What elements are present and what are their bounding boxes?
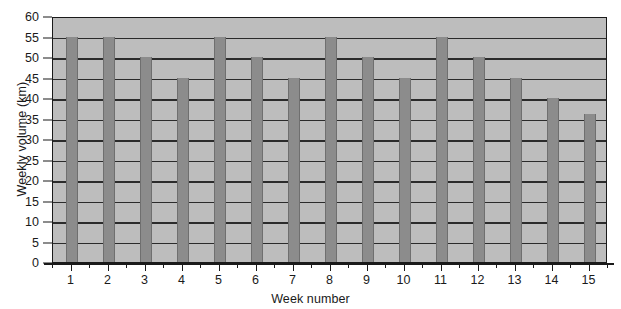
x-minor-tick-mark (607, 264, 608, 268)
x-minor-tick-mark (422, 264, 423, 268)
x-minor-tick-mark (237, 264, 238, 268)
x-tick-label: 1 (67, 274, 74, 287)
x-tick-mark (108, 264, 109, 271)
x-tick-label: 15 (582, 274, 596, 287)
x-tick-mark (515, 264, 516, 271)
x-tick-label: 14 (545, 274, 559, 287)
x-minor-tick-mark (52, 264, 53, 268)
x-tick-mark (182, 264, 183, 271)
x-axis-title: Week number (0, 292, 621, 306)
x-minor-tick-mark (89, 264, 90, 268)
x-tick-label: 6 (252, 274, 259, 287)
x-minor-tick-mark (459, 264, 460, 268)
x-tick-mark (552, 264, 553, 271)
x-tick-mark (404, 264, 405, 271)
x-tick-label: 12 (471, 274, 485, 287)
x-tick-label: 7 (289, 274, 296, 287)
x-tick-mark (589, 264, 590, 271)
x-tick-mark (478, 264, 479, 271)
x-tick-label: 8 (326, 274, 333, 287)
bar-chart-figure: Weekly volume (km) 051015202530354045505… (0, 0, 621, 309)
x-tick-mark (441, 264, 442, 271)
x-tick-label: 13 (508, 274, 522, 287)
x-minor-tick-mark (163, 264, 164, 268)
x-minor-tick-mark (385, 264, 386, 268)
x-minor-tick-mark (348, 264, 349, 268)
x-tick-mark (71, 264, 72, 271)
x-minor-tick-mark (533, 264, 534, 268)
x-tick-label: 3 (141, 274, 148, 287)
x-tick-mark (330, 264, 331, 271)
x-tick-label: 10 (397, 274, 411, 287)
x-tick-label: 2 (104, 274, 111, 287)
x-tick-label: 5 (215, 274, 222, 287)
x-tick-mark (293, 264, 294, 271)
x-minor-tick-mark (570, 264, 571, 268)
x-minor-tick-mark (274, 264, 275, 268)
x-minor-tick-mark (496, 264, 497, 268)
x-tick-mark (145, 264, 146, 271)
x-tick-label: 4 (178, 274, 185, 287)
x-minor-tick-mark (126, 264, 127, 268)
x-tick-mark (219, 264, 220, 271)
x-tick-mark (367, 264, 368, 271)
x-minor-tick-mark (311, 264, 312, 268)
x-tick-label: 9 (363, 274, 370, 287)
x-tick-label: 11 (434, 274, 447, 287)
x-axis-ticks: 123456789101112131415 (0, 0, 621, 309)
x-tick-mark (256, 264, 257, 271)
x-minor-tick-mark (200, 264, 201, 268)
